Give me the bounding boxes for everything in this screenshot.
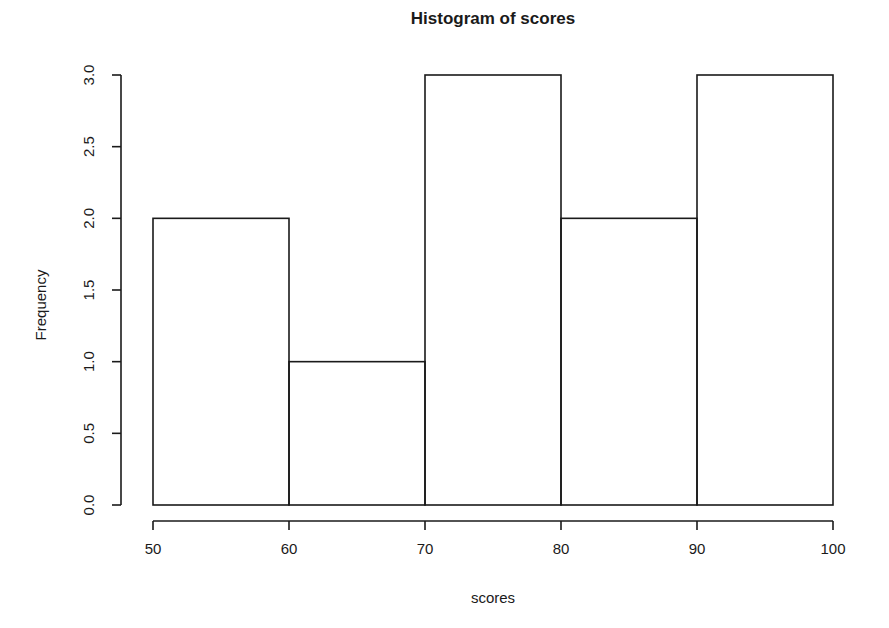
y-tick-label: 2.0: [80, 208, 97, 229]
x-axis-title: scores: [471, 589, 515, 606]
y-axis-tick-labels: 0.00.51.01.52.02.53.0: [80, 65, 97, 516]
y-axis-title: Frequency: [32, 269, 49, 340]
histogram-figure: Histogram of scores 0.00.51.01.52.02.53.…: [0, 0, 889, 628]
x-tick-label: 80: [553, 540, 570, 557]
histogram-canvas: Histogram of scores 0.00.51.01.52.02.53.…: [0, 0, 889, 628]
y-tick-label: 0.5: [80, 423, 97, 444]
histogram-bars: [153, 75, 833, 505]
x-tick-label: 60: [281, 540, 298, 557]
histogram-bar: [697, 75, 833, 505]
x-axis-tick-labels: 5060708090100: [145, 540, 846, 557]
histogram-bar: [153, 218, 289, 505]
histogram-bar: [425, 75, 561, 505]
x-tick-label: 90: [689, 540, 706, 557]
histogram-bar: [561, 218, 697, 505]
x-tick-label: 100: [820, 540, 845, 557]
y-tick-label: 1.0: [80, 351, 97, 372]
chart-title: Histogram of scores: [411, 9, 575, 28]
x-axis-ticks: [153, 521, 833, 530]
y-tick-label: 0.0: [80, 495, 97, 516]
x-tick-label: 50: [145, 540, 162, 557]
x-tick-label: 70: [417, 540, 434, 557]
y-axis-ticks: [112, 75, 121, 505]
y-tick-label: 1.5: [80, 280, 97, 301]
x-axis: 5060708090100 scores: [145, 521, 846, 606]
y-tick-label: 3.0: [80, 65, 97, 86]
y-tick-label: 2.5: [80, 136, 97, 157]
y-axis: 0.00.51.01.52.02.53.0 Frequency: [32, 65, 121, 516]
histogram-bar: [289, 362, 425, 505]
